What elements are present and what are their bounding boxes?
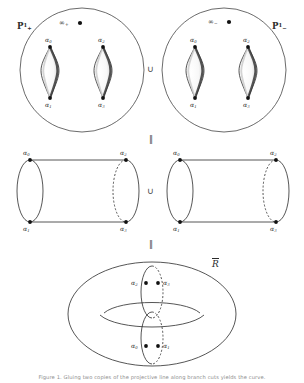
left-cylinder-label-a3: α3 (120, 226, 127, 233)
torus-upper-meridian-visible (141, 266, 152, 318)
left-sheet-label-a0: α0 (45, 37, 52, 44)
right-projective-line (162, 8, 286, 132)
branch-point-a1 (178, 220, 182, 224)
branch-point-a2 (124, 158, 128, 162)
left-cylinder-back-rim-visible (126, 160, 139, 222)
left-sheet-branch-cut-1 (41, 45, 59, 100)
right-cylinder-front-rim (167, 160, 193, 222)
left-cylinder-label-a2: α2 (120, 150, 127, 157)
branch-point-a0 (193, 45, 197, 49)
right-sphere-outline (162, 8, 286, 132)
torus-lower-meridian-hidden (152, 312, 163, 364)
union-symbol-top: ∪ (147, 64, 154, 74)
right-plane-label: P1− (272, 22, 287, 32)
left-projective-line (20, 8, 144, 132)
right-sheet-label-a3: α3 (243, 102, 250, 109)
right-cylinder (167, 158, 289, 224)
branch-point-a1 (28, 220, 32, 224)
right-cylinder-label-a2: α2 (270, 150, 277, 157)
left-sheet-label-a3: α3 (98, 102, 105, 109)
left-cylinder-front-rim (17, 160, 43, 222)
right-infinity-point (227, 20, 231, 24)
branch-point-a2 (144, 281, 148, 285)
branch-point-a3 (101, 96, 105, 100)
equality-symbol-upper: ‖ (149, 135, 153, 144)
right-sheet-branch-cut-2 (239, 45, 257, 100)
right-cylinder-label-a1: α1 (173, 226, 180, 233)
right-cylinder-back-rim-hidden (263, 160, 276, 222)
left-infinity-label: ∞+ (59, 20, 69, 27)
union-symbol-middle: ∪ (147, 186, 154, 196)
branch-point-a3 (124, 220, 128, 224)
torus (68, 262, 236, 366)
branch-point-a3 (274, 220, 278, 224)
left-sheet-label-a1: α1 (45, 102, 52, 109)
torus-label-a3: α3 (163, 280, 170, 287)
torus-lower-meridian-visible (141, 312, 152, 364)
equality-symbol-lower: ‖ (149, 240, 153, 249)
left-sphere-outline (20, 8, 144, 132)
left-cylinder (17, 158, 139, 224)
left-cylinder-back-rim-hidden (113, 160, 126, 222)
right-cylinder-label-a0: α0 (173, 150, 180, 157)
torus-hole-front-arc (100, 315, 204, 327)
branch-point-a0 (144, 344, 148, 348)
left-infinity-point (78, 21, 82, 25)
left-sheet-label-a2: α2 (98, 37, 105, 44)
left-cylinder-label-a1: α1 (23, 226, 30, 233)
left-cylinder-label-a0: α0 (23, 150, 30, 157)
torus-upper-meridian-hidden (152, 266, 163, 318)
branch-point-a3 (156, 281, 160, 285)
right-infinity-label: ∞− (208, 19, 218, 26)
branch-point-a1 (156, 344, 160, 348)
torus-label-a1: α1 (163, 343, 170, 350)
right-cylinder-label-a3: α3 (270, 226, 277, 233)
branch-point-a2 (274, 158, 278, 162)
branch-point-a1 (193, 96, 197, 100)
curve-label-R-bar: R (212, 258, 219, 269)
branch-point-a2 (101, 45, 105, 49)
branch-point-a0 (28, 158, 32, 162)
figure-root: P1+ ∞+ α0 α2 α1 α3 P1− ∞− α0 α2 α1 α3 ∪ … (0, 0, 304, 383)
torus-label-a0: α0 (131, 343, 138, 350)
left-plane-label: P1+ (17, 22, 32, 32)
torus-label-a2: α2 (131, 280, 138, 287)
branch-point-a3 (246, 96, 250, 100)
torus-hole-back-arc (104, 303, 200, 314)
figure-caption: Figure 1. Gluing two copies of the proje… (0, 374, 304, 383)
branch-point-a0 (48, 45, 52, 49)
right-sheet-label-a1: α1 (190, 102, 197, 109)
left-sheet-branch-cut-2 (94, 45, 112, 100)
branch-point-a1 (48, 96, 52, 100)
right-cylinder-back-rim-visible (276, 160, 289, 222)
branch-point-a2 (246, 45, 250, 49)
branch-point-a0 (178, 158, 182, 162)
torus-outer-outline (68, 262, 236, 366)
right-sheet-label-a0: α0 (190, 37, 197, 44)
right-sheet-branch-cut-1 (186, 45, 204, 100)
right-sheet-label-a2: α2 (243, 37, 250, 44)
